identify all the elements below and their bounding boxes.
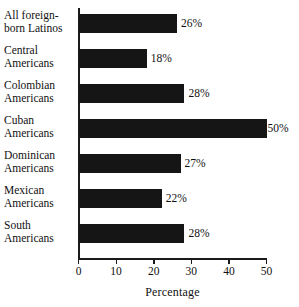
x-tick-mark-50 xyxy=(266,259,267,264)
category-label-line1: Colombian xyxy=(4,79,74,92)
category-label-dominican-americans: Dominican Americans xyxy=(4,149,74,174)
category-label-colombian-americans: Colombian Americans xyxy=(4,79,74,104)
bar-value-mexican-americans: 22% xyxy=(166,189,187,208)
category-label-line1: Mexican xyxy=(4,184,74,197)
category-label-line2: Americans xyxy=(4,162,74,175)
category-label-all-foreign-born-latinos: All foreign- born Latinos xyxy=(4,9,74,34)
bar-value-colombian-americans: 28% xyxy=(188,84,209,103)
x-tick-mark-20 xyxy=(153,259,154,264)
category-label-line2: Americans xyxy=(4,127,74,140)
category-label-line1: Central xyxy=(4,44,74,57)
x-tick-label-20: 20 xyxy=(139,265,169,278)
category-label-central-americans: Central Americans xyxy=(4,44,74,69)
x-tick-label-40: 40 xyxy=(214,265,244,278)
category-label-south-americans: South Americans xyxy=(4,219,74,244)
x-axis-title: Percentage xyxy=(78,285,267,300)
category-label-line2: Americans xyxy=(4,92,74,105)
bar-value-central-americans: 18% xyxy=(151,49,172,68)
category-label-line2: Americans xyxy=(4,197,74,210)
bar-value-all-foreign-born-latinos: 26% xyxy=(181,14,202,33)
bar-value-dominican-americans: 27% xyxy=(185,154,206,173)
bar-value-cuban-americans: 50% xyxy=(268,119,289,138)
x-tick-label-0: 0 xyxy=(64,265,94,278)
bar-all-foreign-born-latinos xyxy=(79,14,177,33)
category-label-mexican-americans: Mexican Americans xyxy=(4,184,74,209)
category-label-line1: All foreign- xyxy=(4,9,74,22)
x-tick-label-10: 10 xyxy=(101,265,131,278)
x-tick-label-30: 30 xyxy=(176,265,206,278)
x-tick-mark-30 xyxy=(191,259,192,264)
bar-mexican-americans xyxy=(79,189,162,208)
x-tick-mark-10 xyxy=(116,259,117,264)
bar-chart: 0 10 20 30 40 50 Percentage All foreign-… xyxy=(0,0,299,307)
category-label-line2: born Latinos xyxy=(4,22,74,35)
x-tick-mark-40 xyxy=(228,259,229,264)
bar-colombian-americans xyxy=(79,84,184,103)
bar-value-south-americans: 28% xyxy=(188,224,209,243)
category-label-line2: Americans xyxy=(4,57,74,70)
bar-dominican-americans xyxy=(79,154,181,173)
x-tick-mark-0 xyxy=(78,259,79,264)
bar-south-americans xyxy=(79,224,184,243)
bar-central-americans xyxy=(79,49,147,68)
x-tick-label-50: 50 xyxy=(252,265,282,278)
plot-area: 0 10 20 30 40 50 Percentage All foreign-… xyxy=(0,0,299,307)
category-label-line2: Americans xyxy=(4,232,74,245)
category-label-line1: Cuban xyxy=(4,114,74,127)
category-label-cuban-americans: Cuban Americans xyxy=(4,114,74,139)
category-label-line1: South xyxy=(4,219,74,232)
bar-cuban-americans xyxy=(79,119,267,138)
category-label-line1: Dominican xyxy=(4,149,74,162)
x-axis-line xyxy=(78,258,267,260)
